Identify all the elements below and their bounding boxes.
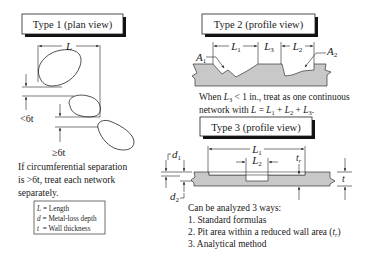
type1-corrosion-area-2: [69, 95, 100, 117]
type1-corrosion-area-1: [38, 50, 81, 86]
type3-d1-bracket: [168, 154, 171, 160]
type3-reduced-wall-area: [209, 172, 305, 175]
type2-pipe-wall: [192, 64, 331, 86]
type3-method-2: 2. Pit area within a reduced wall area (…: [188, 227, 341, 238]
type1-note-line-1: If circumferential separation: [18, 161, 127, 172]
type2-L2-label: L2: [292, 40, 303, 54]
type2-title: Type 2 (profile view): [214, 19, 304, 31]
type1-panel: Type 1 (plan view) L <6t ≥6t If circumfe…: [18, 14, 134, 198]
type2-A2-label: A2: [326, 45, 338, 59]
type3-tr-label: tr: [296, 152, 302, 164]
legend-item-depth: d= Metal-loss depth: [37, 215, 97, 223]
type3-d2-bracket: [180, 193, 184, 198]
type2-note-line-1: When L3 < 1 in., treat as one continuous: [199, 92, 350, 103]
legend-item-thickness: t = Wall thickness: [37, 225, 91, 233]
type1-note-line-2: is >6t, treat each network: [18, 174, 116, 185]
type3-method-1: 1. Standard formulas: [188, 215, 267, 225]
type2-L3-label: L3: [263, 40, 274, 54]
type3-methods-heading: Can be analyzed 3 ways:: [188, 203, 281, 213]
type2-note-line-2: network with L = L1 + L2 + L3.: [199, 105, 314, 116]
type1-corrosion-area-3: [98, 120, 134, 150]
legend-box: L= Length d= Metal-loss depth t = Wall t…: [34, 201, 105, 234]
type2-L1-label: L1: [230, 40, 241, 54]
type3-title: Type 3 (profile view): [211, 122, 301, 134]
type3-t-label: t: [342, 173, 345, 184]
type2-A1-label: A1: [195, 51, 207, 65]
type1-lt6t-label: <6t: [20, 113, 34, 124]
type3-panel: Type 3 (profile view) L1 L2 tr d1 d2: [161, 117, 352, 249]
type3-d1-label: d1: [172, 148, 182, 162]
type2-panel: Type 2 (profile view) L1 L3 L2 A1 A2 Whe…: [192, 14, 350, 116]
type1-title: Type 1 (plan view): [33, 19, 113, 31]
type1-ge6t-label: ≥6t: [52, 147, 65, 158]
type1-note-line-3: separately.: [18, 187, 59, 198]
type3-d2-label: d2: [170, 190, 180, 204]
corrosion-types-diagram: Type 1 (plan view) L <6t ≥6t If circumfe…: [0, 0, 370, 256]
type3-method-3: 3. Analytical method: [188, 239, 267, 249]
